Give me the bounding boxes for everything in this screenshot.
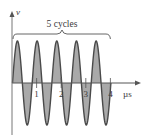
x-tick-label: 2: [59, 89, 64, 99]
y-axis-arrow-icon: [10, 11, 15, 17]
cycles-annotation: 5 cycles: [47, 19, 78, 29]
x-axis-unit-label: µs: [123, 89, 132, 99]
x-tick-label: 4: [108, 89, 113, 99]
y-axis-label: v: [16, 7, 20, 17]
cycles-bracket: [13, 30, 110, 39]
x-tick-label: 3: [84, 89, 89, 99]
x-axis-arrow-icon: [135, 81, 141, 86]
sine-wave-diagram: 1 2 3 4 µs v 5 cycles: [0, 0, 149, 140]
x-tick-label: 1: [34, 89, 39, 99]
